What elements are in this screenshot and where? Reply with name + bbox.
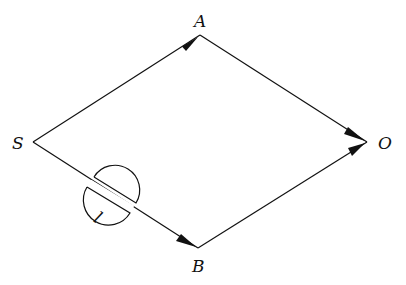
arrowhead-icon bbox=[348, 143, 365, 156]
node-label-o: O bbox=[378, 133, 392, 153]
arrowhead-icon bbox=[182, 37, 198, 51]
node-label-b: B bbox=[191, 256, 205, 276]
path-diagram: l S A O B bbox=[0, 0, 406, 285]
plate: l bbox=[83, 165, 139, 226]
edge-a-o bbox=[200, 35, 367, 142]
edge-b-o bbox=[198, 142, 367, 248]
arrowhead-icon bbox=[344, 127, 365, 141]
node-label-s: S bbox=[12, 133, 24, 153]
node-label-a: A bbox=[192, 11, 206, 31]
edge-s-a bbox=[33, 35, 200, 142]
